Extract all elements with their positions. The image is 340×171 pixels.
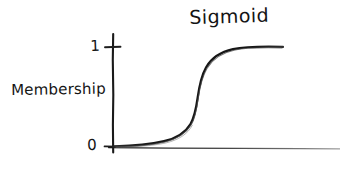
sigmoid-curve-secondary (116, 48, 283, 147)
y-tick-label-one: 1 (90, 37, 100, 55)
sigmoid-chart-figure: Sigmoid Membership 1 0 (0, 0, 340, 171)
y-tick-label-zero: 0 (87, 136, 97, 154)
page-title: Sigmoid (189, 4, 269, 28)
y-axis-label: Membership (11, 80, 106, 99)
x-axis-line (109, 148, 340, 149)
y-axis-line (113, 34, 114, 153)
